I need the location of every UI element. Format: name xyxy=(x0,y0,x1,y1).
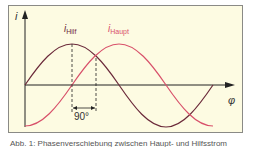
label-i-haupt-subscript: Haupt xyxy=(110,28,129,35)
figure-caption: Abb. 1: Phasenverschiebung zwischen Haup… xyxy=(10,139,227,147)
label-i-hilf-subscript: Hilf xyxy=(66,28,76,35)
phase-angle-label: 90° xyxy=(74,111,89,122)
x-axis-label: φ xyxy=(228,94,235,106)
label-i-haupt: iHaupt xyxy=(108,23,129,35)
y-axis-label: i xyxy=(15,10,17,22)
phase-diagram: i φ iHilf iHaupt 90° Abb. 1: Phasenversc… xyxy=(0,0,253,147)
label-i-hilf: iHilf xyxy=(64,23,76,35)
